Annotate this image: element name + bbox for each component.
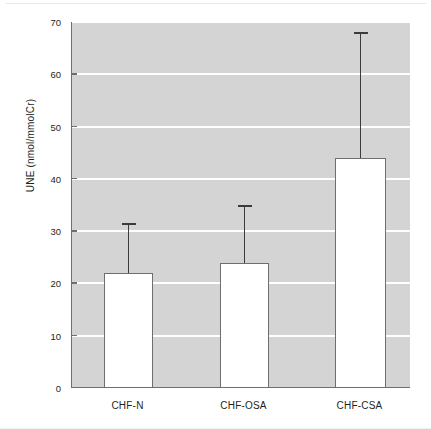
y-tick-mark-50 xyxy=(71,126,77,128)
bar-chf-osa xyxy=(220,263,269,388)
y-tick-label-0: 0 xyxy=(31,383,61,394)
y-tick-label-70: 70 xyxy=(31,17,61,28)
error-bar-stem-chf-osa xyxy=(244,205,245,263)
y-tick-mark-20 xyxy=(71,282,77,284)
y-tick-mark-30 xyxy=(71,230,77,232)
x-tick-label-chf-csa: CHF-CSA xyxy=(337,400,383,411)
y-tick-label-10: 10 xyxy=(31,330,61,341)
y-tick-label-50: 50 xyxy=(31,121,61,132)
y-axis-tick-labels: 010203040506070 xyxy=(0,0,71,429)
bar-chf-n xyxy=(104,273,153,388)
gridline-70 xyxy=(72,21,410,23)
figure-canvas: UNE (nmol/mmolCr) 010203040506070 CHF-NC… xyxy=(0,0,431,429)
error-bar-cap-chf-csa xyxy=(354,32,368,34)
error-bar-cap-chf-osa xyxy=(238,205,252,207)
error-bar-stem-chf-csa xyxy=(360,32,361,157)
y-tick-mark-40 xyxy=(71,178,77,180)
error-bar-cap-chf-n xyxy=(122,223,136,225)
y-tick-label-60: 60 xyxy=(31,69,61,80)
y-tick-label-40: 40 xyxy=(31,173,61,184)
error-bar-stem-chf-n xyxy=(128,223,129,273)
bar-chf-csa xyxy=(335,158,386,388)
y-tick-label-30: 30 xyxy=(31,226,61,237)
plot-area xyxy=(71,22,410,388)
x-tick-label-chf-osa: CHF-OSA xyxy=(220,400,266,411)
y-tick-mark-60 xyxy=(71,73,77,75)
y-tick-mark-10 xyxy=(71,335,77,337)
y-tick-label-20: 20 xyxy=(31,278,61,289)
x-tick-label-chf-n: CHF-N xyxy=(111,400,143,411)
